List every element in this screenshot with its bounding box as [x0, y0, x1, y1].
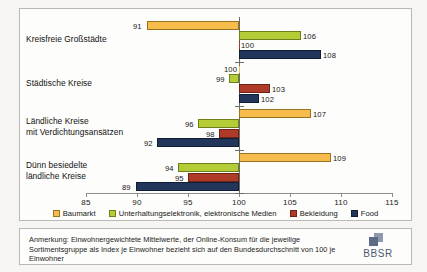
- y-tick-group-4: [235, 193, 244, 194]
- x-tick-85: [86, 193, 87, 197]
- x-tick-90: [137, 193, 138, 197]
- barlabel-laendliche-kreise-elektronik: 96: [185, 120, 194, 129]
- legend-label-elektronik: Unterhaltungselektronik, elektronische M…: [119, 209, 277, 218]
- footnote-text: Anmerkung: Einwohnergewichtete Mittelwer…: [29, 235, 339, 264]
- bar-staedtische-kreise-baumarkt: [239, 65, 240, 74]
- category-label-line1: Städtische Kreise: [26, 78, 151, 89]
- bar-duenn-besiedelte-baumarkt: [239, 153, 331, 162]
- legend-swatch-icon-baumarkt: [53, 210, 60, 217]
- barlabel-staedtische-kreise-food: 102: [261, 95, 274, 104]
- category-label-line2: mit Verdichtungsansätzen: [26, 127, 151, 138]
- legend-swatch-icon-bekleidung: [290, 210, 297, 217]
- category-label-staedtische-kreise: Städtische Kreise: [26, 78, 151, 89]
- barlabel-duenn-besiedelte-baumarkt: 109: [333, 154, 346, 163]
- legend-swatch-icon-food: [351, 210, 358, 217]
- legend-item-baumarkt: Baumarkt: [53, 209, 96, 218]
- bar-staedtische-kreise-food: [239, 94, 259, 103]
- bar-duenn-besiedelte-elektronik: [178, 163, 239, 172]
- barlabel-staedtische-kreise-baumarkt: 100: [224, 65, 237, 74]
- barlabel-duenn-besiedelte-food: 89: [122, 183, 131, 192]
- barlabel-laendliche-kreise-baumarkt: 107: [313, 110, 326, 119]
- y-tick-group-3: [235, 150, 244, 151]
- bar-kreisfreie-grossstaedte-elektronik: [239, 31, 301, 40]
- barlabel-staedtische-kreise-elektronik: 99: [216, 75, 225, 84]
- barlabel-kreisfreie-grossstaedte-elektronik: 106: [303, 32, 316, 41]
- legend-label-food: Food: [361, 209, 379, 218]
- bbsr-logo: BBSR: [353, 232, 403, 264]
- barlabel-kreisfreie-grossstaedte-food: 108: [323, 51, 336, 60]
- barlabel-laendliche-kreise-food: 92: [144, 139, 153, 148]
- bbsr-wordmark: BBSR: [353, 248, 403, 259]
- x-tick-95: [188, 193, 189, 197]
- bar-laendliche-kreise-bekleidung: [219, 129, 239, 138]
- bar-staedtische-kreise-elektronik: [229, 74, 239, 83]
- x-tick-110: [341, 193, 342, 197]
- bbsr-squares-icon: [369, 233, 385, 247]
- barlabel-staedtische-kreise-bekleidung: 103: [272, 85, 285, 94]
- figure-container: 85 90 95 100 105 110 115 Kreisfreie Groß…: [0, 0, 427, 272]
- bar-staedtische-kreise-bekleidung: [239, 84, 270, 93]
- legend-item-elektronik: Unterhaltungselektronik, elektronische M…: [109, 209, 277, 218]
- bar-laendliche-kreise-elektronik: [198, 119, 239, 128]
- x-tick-105: [290, 193, 291, 197]
- bar-laendliche-kreise-baumarkt: [239, 109, 311, 118]
- legend-item-food: Food: [351, 209, 379, 218]
- barlabel-kreisfreie-grossstaedte-bekleidung: 100: [241, 41, 254, 50]
- legend: Baumarkt Unterhaltungselektronik, elektr…: [19, 206, 412, 220]
- category-label-line2: ländliche Kreise: [26, 171, 151, 182]
- bar-kreisfreie-grossstaedte-bekleidung: [239, 41, 240, 50]
- category-label-laendliche-kreise: Ländliche Kreise mit Verdichtungsansätze…: [26, 116, 151, 137]
- footnote-panel: Anmerkung: Einwohnergewichtete Mittelwer…: [19, 228, 412, 265]
- category-label-line1: Dünn besiedelte: [26, 160, 151, 171]
- category-label-line1: Ländliche Kreise: [26, 116, 151, 127]
- x-tick-115: [392, 193, 393, 197]
- bar-duenn-besiedelte-food: [136, 182, 239, 191]
- legend-label-baumarkt: Baumarkt: [63, 209, 96, 218]
- legend-item-bekleidung: Bekleidung: [290, 209, 338, 218]
- category-label-duenn-besiedelte: Dünn besiedelte ländliche Kreise: [26, 160, 151, 181]
- chart-panel: 85 90 95 100 105 110 115 Kreisfreie Groß…: [19, 8, 412, 221]
- bbsr-square-front: [369, 237, 378, 246]
- legend-swatch-icon-elektronik: [109, 210, 116, 217]
- y-tick-group-1: [235, 62, 244, 63]
- bar-kreisfreie-grossstaedte-baumarkt: [147, 21, 239, 30]
- plot-area: 85 90 95 100 105 110 115 Kreisfreie Groß…: [20, 9, 413, 222]
- y-tick-group-2: [235, 106, 244, 107]
- barlabel-duenn-besiedelte-elektronik: 94: [165, 164, 174, 173]
- barlabel-kreisfreie-grossstaedte-baumarkt: 91: [133, 22, 142, 31]
- bar-duenn-besiedelte-bekleidung: [188, 173, 239, 182]
- legend-label-bekleidung: Bekleidung: [300, 209, 338, 218]
- category-label-kreisfreie-grossstaedte: Kreisfreie Großstädte: [26, 34, 151, 45]
- bar-kreisfreie-grossstaedte-food: [239, 50, 321, 59]
- category-label-line1: Kreisfreie Großstädte: [26, 34, 151, 45]
- bar-laendliche-kreise-food: [157, 138, 239, 147]
